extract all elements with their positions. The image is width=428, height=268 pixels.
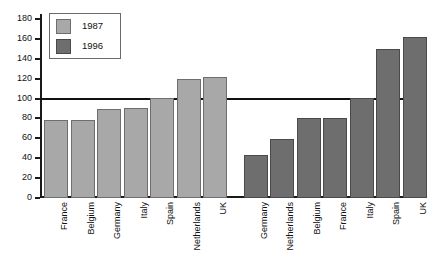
x-axis-label-1996-belgium: Belgium — [313, 202, 322, 235]
bar-1987-spain — [150, 98, 174, 198]
x-axis-label-1987-uk: UK — [219, 202, 228, 215]
bar-1987-uk — [203, 77, 227, 198]
bar-1987-netherlands — [177, 79, 201, 198]
y-tick-label: 160 — [17, 34, 32, 43]
x-axis-label-1987-spain: Spain — [166, 202, 175, 225]
bar-1987-germany — [97, 109, 121, 199]
x-axis-label-1996-netherlands: Netherlands — [286, 202, 295, 251]
x-axis-label-1996-uk: UK — [419, 202, 428, 215]
y-tick-label: 180 — [17, 14, 32, 23]
y-tick-label: 60 — [22, 133, 32, 142]
x-axis-label-1987-belgium: Belgium — [87, 202, 96, 235]
y-tick-label: 120 — [17, 74, 32, 83]
legend-label-1987: 1987 — [82, 21, 103, 31]
x-axis-label-1996-france: France — [339, 202, 348, 230]
y-tick-label: 80 — [22, 113, 32, 122]
bar-1996-germany — [244, 155, 268, 198]
x-axis-label-1987-netherlands: Netherlands — [193, 202, 202, 251]
bar-1996-uk — [403, 37, 427, 198]
bar-1996-italy — [350, 98, 374, 198]
legend-label-1996: 1996 — [82, 41, 103, 51]
legend: 1987 1996 — [49, 13, 121, 59]
y-tick-label: 140 — [17, 54, 32, 63]
bar-1996-france — [323, 118, 347, 198]
y-tick-label: 0 — [27, 193, 32, 202]
x-axis-label-1987-france: France — [60, 202, 69, 230]
bar-1987-belgium — [71, 120, 95, 198]
y-tick-label: 20 — [22, 173, 32, 182]
x-axis-label-1996-spain: Spain — [392, 202, 401, 225]
legend-swatch-1987 — [56, 19, 71, 34]
bar-1996-netherlands — [270, 139, 294, 198]
bar-1987-italy — [124, 108, 148, 198]
legend-swatch-1996 — [56, 39, 71, 54]
bar-1987-france — [44, 120, 68, 198]
y-axis: 020406080100120140160180 — [0, 0, 40, 198]
x-axis-label-1987-germany: Germany — [113, 202, 122, 239]
y-tick-label: 100 — [17, 94, 32, 103]
x-axis-label-1996-germany: Germany — [260, 202, 269, 239]
x-axis-label-1987-italy: Italy — [140, 202, 149, 219]
x-axis-label-1996-italy: Italy — [366, 202, 375, 219]
y-tick-label: 40 — [22, 153, 32, 162]
bar-1996-spain — [376, 49, 400, 198]
bar-1996-belgium — [297, 118, 321, 198]
